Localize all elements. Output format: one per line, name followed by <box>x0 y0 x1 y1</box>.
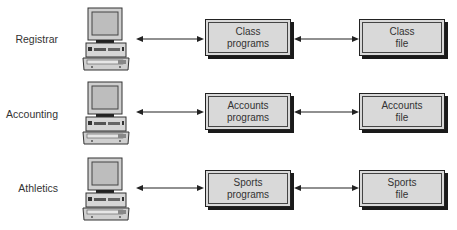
bidirectional-arrow <box>294 108 359 116</box>
computer-icon <box>82 156 130 222</box>
file-box: Accounts file <box>359 93 445 130</box>
program-box: Class programs <box>205 19 291 56</box>
bidirectional-arrow <box>136 108 204 116</box>
department-label: Registrar <box>15 33 58 45</box>
computer-icon <box>82 80 130 146</box>
computer-icon <box>82 6 130 72</box>
file-box-label: Accounts file <box>360 99 444 124</box>
row-athletics: Athletics Sports programs <box>0 154 457 230</box>
program-box: Accounts programs <box>205 93 291 130</box>
file-box-label: Sports file <box>360 176 444 201</box>
program-box-label: Accounts programs <box>206 99 290 124</box>
bidirectional-arrow <box>136 35 204 43</box>
file-box: Class file <box>359 19 445 56</box>
program-box: Sports programs <box>205 170 291 207</box>
bidirectional-arrow <box>294 184 359 192</box>
row-registrar: Registrar Class programs <box>0 4 457 80</box>
bidirectional-arrow <box>294 35 359 43</box>
department-label: Athletics <box>18 182 58 194</box>
file-box: Sports file <box>359 170 445 207</box>
file-box-label: Class file <box>360 25 444 50</box>
program-box-label: Class programs <box>206 25 290 50</box>
department-label: Accounting <box>6 108 58 120</box>
program-box-label: Sports programs <box>206 176 290 201</box>
bidirectional-arrow <box>136 184 204 192</box>
row-accounting: Accounting Accounts programs <box>0 78 457 154</box>
